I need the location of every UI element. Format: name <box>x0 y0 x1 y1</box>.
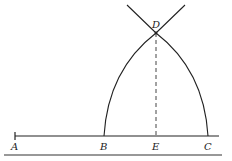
label-e: E <box>151 141 160 152</box>
label-a: A <box>10 141 18 152</box>
construction-diagram: A B E C D <box>0 0 232 161</box>
arc-from-c <box>127 5 208 136</box>
arc-from-b <box>104 5 185 136</box>
label-b: B <box>99 141 107 152</box>
label-d: D <box>151 19 160 30</box>
label-c: C <box>204 141 212 152</box>
point-d <box>155 32 158 35</box>
